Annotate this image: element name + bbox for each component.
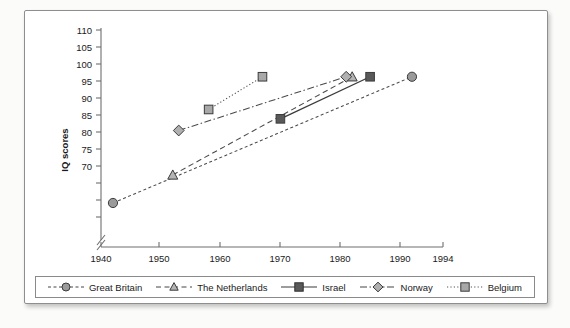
legend-swatch-great-britain — [48, 280, 84, 294]
y-tick-label: 85 — [81, 110, 92, 121]
x-tick-label: 1960 — [209, 253, 230, 264]
legend-label: Belgium — [488, 282, 522, 293]
legend-item-belgium[interactable]: Belgium — [447, 280, 522, 294]
x-tick-label: 1990 — [389, 253, 410, 264]
x-tick-label: 1994 — [432, 253, 453, 264]
legend-swatch-israel — [281, 280, 317, 294]
series-great-britain — [108, 72, 416, 207]
legend-swatch-the-netherlands — [156, 280, 192, 294]
y-tick-label: 100 — [76, 59, 92, 70]
y-tick-label: 70 — [81, 161, 92, 172]
y-tick-label: 80 — [81, 127, 92, 138]
y-tick-labels: 110 105 100 95 90 85 80 75 70 — [76, 25, 92, 172]
legend-label: The Netherlands — [197, 282, 267, 293]
x-tick-label: 1950 — [148, 253, 169, 264]
legend-item-norway[interactable]: Norway — [360, 280, 433, 294]
legend-swatch-norway — [360, 280, 396, 294]
legend-label: Israel — [322, 282, 345, 293]
y-tick-label: 90 — [81, 93, 92, 104]
legend-label: Norway — [401, 282, 433, 293]
y-tick-label: 75 — [81, 144, 92, 155]
legend-item-the-netherlands[interactable]: The Netherlands — [156, 280, 267, 294]
chart-legend: Great Britain The Netherlands Israel Nor… — [35, 276, 535, 298]
x-tick-labels: 1940 1950 1960 1970 1980 1990 1994 — [90, 253, 453, 264]
x-tick-label: 1980 — [329, 253, 350, 264]
legend-swatch-belgium — [447, 280, 483, 294]
y-axis-title: IQ scores — [59, 128, 70, 171]
y-tick-label: 105 — [76, 42, 92, 53]
y-axis — [96, 28, 105, 250]
x-axis — [101, 242, 443, 247]
legend-label: Great Britain — [89, 282, 142, 293]
legend-item-israel[interactable]: Israel — [281, 280, 345, 294]
x-tick-label: 1940 — [90, 253, 111, 264]
legend-item-great-britain[interactable]: Great Britain — [48, 280, 142, 294]
y-tick-label: 95 — [81, 76, 92, 87]
series-israel — [276, 72, 374, 123]
series-belgium — [204, 72, 266, 113]
x-tick-label: 1970 — [269, 253, 290, 264]
y-tick-label: 110 — [77, 25, 92, 36]
data-series-layer — [108, 71, 416, 207]
